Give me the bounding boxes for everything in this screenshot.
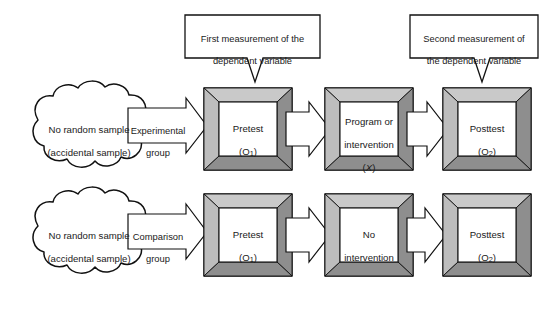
- callout-second-line1: Second measurement of: [423, 34, 524, 44]
- box-no-intervention-comparison-label: No intervention: [340, 218, 398, 263]
- pretest-experimental-notation: (O1): [239, 146, 257, 157]
- posttest-experimental-notation: (O2): [478, 146, 496, 157]
- no-intervention-line1: No: [363, 229, 375, 240]
- cloud-comparison-line2: (accidental sample): [47, 253, 130, 264]
- callout-first-measurement-text: First measurement of the dependent varia…: [186, 23, 319, 67]
- experimental-group-line2: group: [146, 147, 170, 158]
- box-pretest-experimental-label: Pretest (O1): [219, 112, 277, 159]
- pretest-experimental-title: Pretest: [233, 123, 263, 134]
- box-posttest-experimental-label: Posttest (O2): [458, 112, 516, 159]
- diagram-canvas: First measurement of the dependent varia…: [0, 0, 545, 313]
- box-intervention-experimental-label: Program or intervention (X): [340, 105, 398, 173]
- cloud-comparison-line1: No random sample: [48, 230, 129, 241]
- arrow-experimental-group-label: Experimental group: [129, 114, 187, 158]
- pretest-comparison-notation: (O1): [239, 252, 257, 263]
- callout-second-measurement-text: Second measurement of the dependent vari…: [411, 23, 537, 67]
- posttest-experimental-title: Posttest: [470, 123, 505, 134]
- intervention-line1: Program or: [345, 116, 393, 127]
- intervention-notation: (X): [363, 162, 376, 173]
- intervention-line2: intervention: [344, 139, 394, 150]
- callout-first-line1: First measurement of the: [201, 34, 304, 44]
- experimental-group-line1: Experimental: [131, 125, 186, 136]
- arrow-comparison-group-label: Comparison group: [129, 220, 187, 264]
- callout-second-line2: the dependent variable: [427, 56, 522, 66]
- cloud-experimental-line2: (accidental sample): [47, 147, 130, 158]
- comparison-group-line1: Comparison: [133, 231, 184, 242]
- callout-first-line2: dependent variable: [213, 56, 292, 66]
- box-pretest-comparison-label: Pretest (O1): [219, 218, 277, 265]
- cloud-experimental-line1: No random sample: [48, 124, 129, 135]
- comparison-group-line2: group: [146, 253, 170, 264]
- posttest-comparison-title: Posttest: [470, 229, 505, 240]
- box-posttest-comparison-label: Posttest (O2): [458, 218, 516, 265]
- posttest-comparison-notation: (O2): [478, 252, 496, 263]
- no-intervention-line2: intervention: [344, 252, 394, 263]
- pretest-comparison-title: Pretest: [233, 229, 263, 240]
